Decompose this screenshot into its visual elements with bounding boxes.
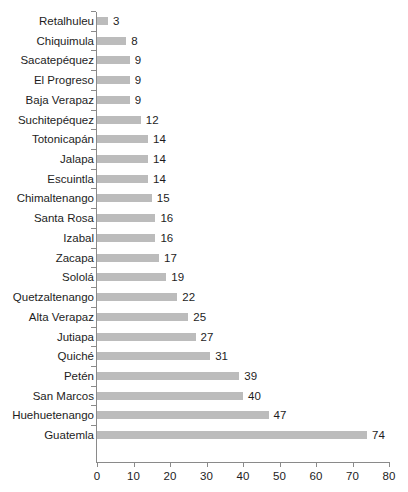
bar	[97, 37, 126, 45]
category-label: Chiquimula	[36, 35, 94, 47]
x-axis-tick-label: 0	[77, 470, 117, 482]
bar-value-label: 9	[135, 94, 141, 106]
category-label: Guatemla	[44, 429, 94, 441]
x-axis-tick-label: 70	[333, 470, 373, 482]
x-axis-tick-label: 20	[150, 470, 190, 482]
bar	[97, 392, 243, 400]
category-label: Quiché	[58, 350, 94, 362]
bar-value-label: 8	[131, 35, 137, 47]
bar-value-label: 12	[146, 114, 159, 126]
bar	[97, 273, 166, 281]
category-label: Alta Verapaz	[29, 311, 94, 323]
bar-value-label: 31	[215, 350, 228, 362]
bar-value-label: 9	[135, 74, 141, 86]
bar-value-label: 74	[372, 429, 385, 441]
bar	[97, 56, 130, 64]
bar	[97, 372, 239, 380]
y-axis-tick	[91, 346, 96, 347]
y-axis-tick	[91, 149, 96, 150]
category-label: Jutiapa	[57, 331, 94, 343]
x-axis-tick	[134, 462, 135, 467]
bar	[97, 352, 210, 360]
x-axis-tick-label: 10	[114, 470, 154, 482]
bar-value-label: 16	[160, 232, 173, 244]
category-label: Totonicapán	[32, 133, 94, 145]
category-label: Sacatepéquez	[20, 54, 94, 66]
y-axis-tick	[91, 287, 96, 288]
category-label: San Marcos	[33, 390, 94, 402]
x-axis-tick-label: 50	[260, 470, 300, 482]
category-label: Jalapa	[60, 153, 94, 165]
y-axis-tick	[91, 90, 96, 91]
y-axis-tick	[91, 405, 96, 406]
y-axis-tick	[91, 50, 96, 51]
x-axis-tick	[316, 462, 317, 467]
bar-value-label: 14	[153, 153, 166, 165]
bar-chart: Retalhuleu3Chiquimula8Sacatepéquez9El Pr…	[0, 0, 408, 492]
bar	[97, 135, 148, 143]
x-axis-tick	[353, 462, 354, 467]
x-axis-tick-label: 80	[369, 470, 408, 482]
y-axis-tick	[91, 425, 96, 426]
x-axis-tick	[280, 462, 281, 467]
bar-value-label: 19	[171, 271, 184, 283]
plot-area: Retalhuleu3Chiquimula8Sacatepéquez9El Pr…	[0, 0, 408, 492]
bar-value-label: 47	[274, 409, 287, 421]
category-label: Sololá	[62, 271, 94, 283]
category-label: Suchitepéquez	[18, 114, 94, 126]
x-axis-tick	[170, 462, 171, 467]
y-axis-tick	[91, 110, 96, 111]
x-axis-tick	[97, 462, 98, 467]
y-axis-tick	[91, 70, 96, 71]
bar	[97, 333, 196, 341]
bar	[97, 293, 177, 301]
category-label: Santa Rosa	[34, 212, 94, 224]
y-axis-tick	[91, 11, 96, 12]
bar	[97, 194, 152, 202]
x-axis-tick-label: 30	[187, 470, 227, 482]
y-axis-tick	[91, 366, 96, 367]
x-axis-tick-label: 40	[223, 470, 263, 482]
bar	[97, 234, 155, 242]
category-label: Retalhuleu	[39, 15, 94, 27]
category-label: Chimaltenango	[17, 192, 94, 204]
y-axis-tick	[91, 169, 96, 170]
y-axis-tick	[91, 248, 96, 249]
y-axis-tick	[91, 228, 96, 229]
y-axis-tick	[91, 307, 96, 308]
bar-value-label: 40	[248, 390, 261, 402]
category-label: El Progreso	[34, 74, 94, 86]
bar	[97, 254, 159, 262]
bar-value-label: 3	[113, 15, 119, 27]
bar-value-label: 15	[157, 192, 170, 204]
bar-value-label: 14	[153, 173, 166, 185]
x-axis-tick	[243, 462, 244, 467]
y-axis-tick	[91, 327, 96, 328]
x-axis-tick	[389, 462, 390, 467]
y-axis-tick	[91, 31, 96, 32]
category-label: Baja Verapaz	[26, 94, 94, 106]
y-axis-tick	[91, 188, 96, 189]
bar-value-label: 22	[182, 291, 195, 303]
category-label: Zacapa	[56, 252, 94, 264]
category-label: Izabal	[63, 232, 94, 244]
y-axis-tick	[91, 129, 96, 130]
category-label: Petén	[64, 370, 94, 382]
bar	[97, 155, 148, 163]
bar-value-label: 25	[193, 311, 206, 323]
bar	[97, 17, 108, 25]
bar-value-label: 27	[201, 331, 214, 343]
category-label: Escuintla	[47, 173, 94, 185]
x-axis-tick	[207, 462, 208, 467]
bar	[97, 214, 155, 222]
y-axis-tick	[91, 208, 96, 209]
bar-value-label: 17	[164, 252, 177, 264]
x-axis-tick-label: 60	[296, 470, 336, 482]
bar	[97, 411, 269, 419]
bar	[97, 76, 130, 84]
y-axis-tick	[91, 267, 96, 268]
bar	[97, 116, 141, 124]
bar	[97, 431, 367, 439]
category-label: Huehuetenango	[12, 409, 94, 421]
category-label: Quetzaltenango	[13, 291, 94, 303]
